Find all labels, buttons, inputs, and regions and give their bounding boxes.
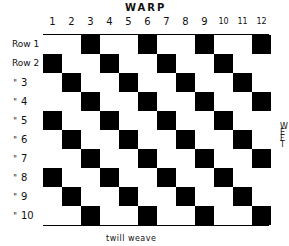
empty-cell [233,92,252,111]
row-label: "10 [0,206,40,225]
empty-cell [233,206,252,225]
filled-cell [43,54,62,73]
empty-cell [43,130,62,149]
empty-cell [43,35,62,54]
empty-cell [100,206,119,225]
filled-cell [157,54,176,73]
empty-cell [43,187,62,206]
caption: twill weave [106,234,156,243]
weft-label: WEFT [280,124,289,148]
filled-cell [214,168,233,187]
empty-cell [157,149,176,168]
filled-cell [100,111,119,130]
empty-cell [233,149,252,168]
filled-cell [252,35,271,54]
empty-cell [62,92,81,111]
empty-cell [233,35,252,54]
empty-cell [176,54,195,73]
empty-cell [119,111,138,130]
empty-cell [176,35,195,54]
empty-cell [157,206,176,225]
empty-cell [43,206,62,225]
empty-cell [119,149,138,168]
empty-cell [100,73,119,92]
filled-cell [119,187,138,206]
filled-cell [100,168,119,187]
empty-cell [81,187,100,206]
ditto-mark: " [0,131,17,150]
filled-cell [81,206,100,225]
empty-cell [81,111,100,130]
row-number: 10 [21,210,34,221]
filled-cell [62,73,81,92]
empty-cell [138,54,157,73]
row-label: "9 [0,187,40,206]
row-label: Row 2 [0,54,40,73]
empty-cell [62,35,81,54]
filled-cell [195,149,214,168]
ditto-mark: " [0,112,17,131]
column-label: 10 [214,17,233,26]
filled-cell [119,130,138,149]
empty-cell [214,73,233,92]
row-label-text: Row 2 [12,58,39,68]
empty-cell [62,206,81,225]
empty-cell [62,149,81,168]
row-label: "6 [0,130,40,149]
empty-cell [176,92,195,111]
filled-cell [119,73,138,92]
empty-cell [138,130,157,149]
column-label: 11 [233,17,252,26]
empty-cell [119,54,138,73]
row-label: Row 1 [0,35,40,54]
filled-cell [195,35,214,54]
empty-cell [214,187,233,206]
filled-cell [176,187,195,206]
empty-cell [252,73,271,92]
empty-cell [195,187,214,206]
filled-cell [81,92,100,111]
filled-cell [233,73,252,92]
empty-cell [81,168,100,187]
empty-cell [252,168,271,187]
empty-cell [81,130,100,149]
row-number: 7 [21,153,27,164]
column-label: 12 [252,17,271,26]
empty-cell [43,149,62,168]
empty-cell [252,111,271,130]
filled-cell [81,149,100,168]
empty-cell [100,92,119,111]
filled-cell [157,168,176,187]
row-number: 9 [21,191,27,202]
column-label: 3 [81,16,100,27]
filled-cell [214,54,233,73]
filled-cell [138,35,157,54]
filled-cell [214,111,233,130]
empty-cell [233,54,252,73]
empty-cell [138,73,157,92]
filled-cell [62,130,81,149]
empty-cell [233,111,252,130]
ditto-mark: " [0,207,17,226]
row-number: 3 [21,77,27,88]
filled-cell [138,92,157,111]
empty-cell [119,35,138,54]
filled-cell [195,206,214,225]
column-label: 8 [176,16,195,27]
empty-cell [252,187,271,206]
empty-cell [176,111,195,130]
column-label: 6 [138,16,157,27]
empty-cell [62,168,81,187]
empty-cell [176,149,195,168]
empty-cell [100,187,119,206]
empty-cell [138,168,157,187]
empty-cell [252,130,271,149]
empty-cell [195,73,214,92]
filled-cell [176,130,195,149]
weave-grid [43,35,271,225]
empty-cell [119,92,138,111]
ditto-mark: " [0,93,17,112]
empty-cell [62,111,81,130]
filled-cell [138,149,157,168]
row-label: "5 [0,111,40,130]
